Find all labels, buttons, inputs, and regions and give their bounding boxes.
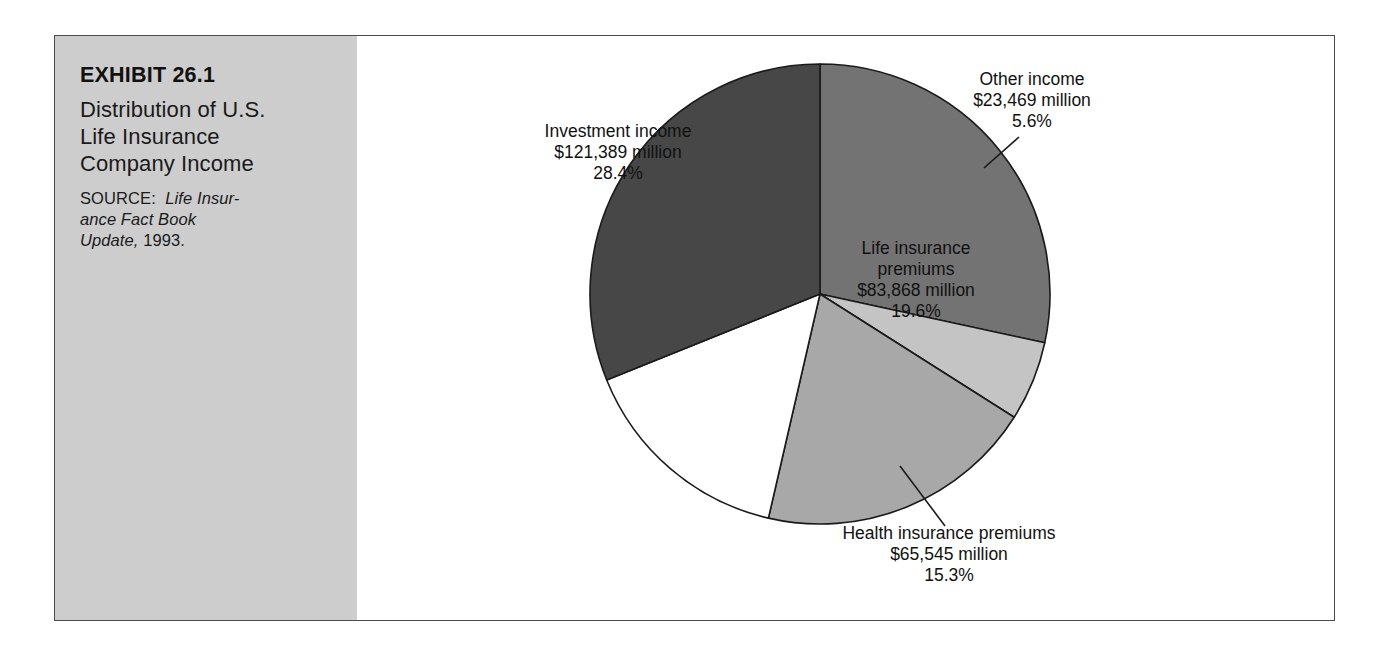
exhibit-title: Distribution of U.S. Life Insurance Comp… (80, 96, 333, 178)
exhibit-title-line-1: Distribution of U.S. (80, 96, 333, 123)
exhibit-frame: EXHIBIT 26.1 Distribution of U.S. Life I… (54, 35, 1335, 621)
pie-slices (590, 64, 1050, 524)
source-italic-line-1: Life Insur- (161, 189, 240, 207)
caption-panel: EXHIBIT 26.1 Distribution of U.S. Life I… (55, 36, 357, 620)
exhibit-number: EXHIBIT 26.1 (80, 63, 333, 88)
source-year: 1993. (143, 231, 185, 249)
exhibit-title-line-2: Life Insurance (80, 123, 333, 150)
source-italic-line-3: Update, (80, 231, 139, 249)
exhibit-title-line-3: Company Income (80, 150, 333, 177)
pie-chart (357, 36, 1334, 620)
chart-panel: Annuity plans $132,645 31.1% Investment … (357, 36, 1334, 620)
exhibit-source-line-3: Update, 1993. (80, 230, 333, 251)
exhibit-source: SOURCE: Life Insur- ance Fact Book Updat… (80, 188, 333, 252)
exhibit-source-line-2: ance Fact Book (80, 209, 333, 230)
source-label: SOURCE: (80, 189, 156, 207)
exhibit-source-line-1: SOURCE: Life Insur- (80, 188, 333, 209)
